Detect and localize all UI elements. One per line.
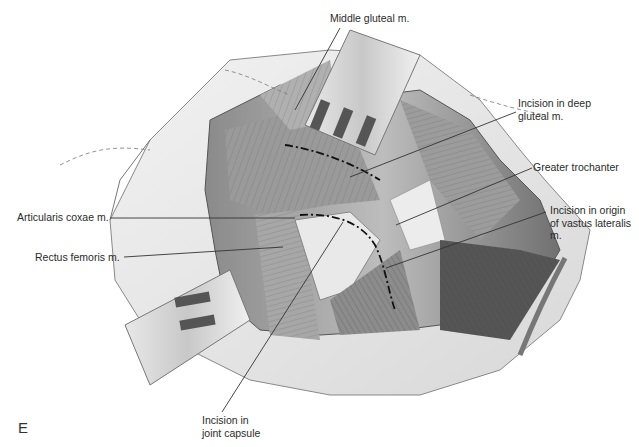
label-incision-vastus-lateralis: Incision in origin of vastus lateralis m…: [550, 204, 631, 242]
panel-letter: E: [18, 419, 28, 436]
label-articularis-coxae: Articularis coxae m.: [17, 211, 109, 224]
label-rectus-femoris: Rectus femoris m.: [35, 251, 120, 264]
label-incision-joint-capsule: Incision in joint capsule: [202, 414, 260, 439]
anatomical-illustration: [0, 0, 639, 447]
label-middle-gluteal: Middle gluteal m.: [330, 12, 409, 25]
label-greater-trochanter: Greater trochanter: [533, 161, 619, 174]
label-incision-deep-gluteal: Incision in deep gluteal m.: [518, 97, 591, 122]
